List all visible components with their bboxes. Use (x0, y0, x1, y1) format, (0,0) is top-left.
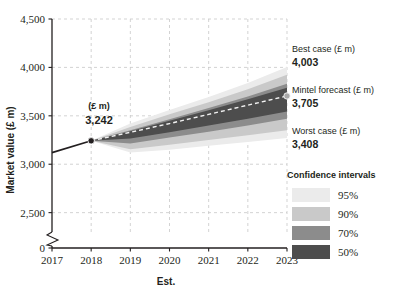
anchor-point-value-label: 3,242 (85, 114, 113, 126)
chart-canvas: 02,5003,0003,5004,0004,500 2017201820192… (0, 0, 399, 298)
x-tick-label-2: 2019 (119, 254, 142, 266)
x-tick-label-0: 2017 (41, 254, 64, 266)
legend-label-50%: 50% (338, 246, 358, 258)
legend-label-95%: 95% (338, 189, 358, 201)
confidence-bands (91, 67, 287, 152)
y-tick-label-2: 3,000 (20, 158, 45, 170)
annotation-title-0: Best case (£ m) (292, 44, 355, 54)
y-tick-label-4: 4,000 (20, 61, 45, 73)
annotation-title-2: Worst case (£ m) (292, 126, 360, 136)
marker-point-1 (284, 93, 290, 99)
historical-solid-line (52, 141, 91, 153)
legend-swatch-95% (292, 188, 330, 202)
x-tick-label-4: 2021 (198, 254, 220, 266)
x-tick-label-3: 2020 (159, 254, 182, 266)
y-tick-label-0: 0 (40, 242, 46, 254)
legend-swatch-70% (292, 226, 330, 240)
x-tick-label-5: 2022 (237, 254, 259, 266)
legend-swatch-50% (292, 245, 330, 259)
legend: Confidence intervals 95%90%70%50% (287, 170, 376, 259)
historical-line (52, 141, 91, 153)
legend-items: 95%90%70%50% (292, 188, 358, 259)
annotation-value-2: 3,408 (292, 138, 318, 150)
x-axis-title: Est. (157, 276, 176, 287)
annotation-value-1: 3,705 (292, 97, 318, 109)
y-tick-label-5: 4,500 (20, 13, 45, 25)
legend-swatch-90% (292, 207, 330, 221)
legend-title: Confidence intervals (287, 170, 376, 180)
right-annotations: Best case (£ m)4,003Mintel forecast (£ m… (292, 44, 374, 150)
y-tick-label-1: 2,500 (20, 207, 45, 219)
legend-label-90%: 90% (338, 208, 358, 220)
marker-point-0 (88, 138, 94, 144)
annotation-title-1: Mintel forecast (£ m) (292, 85, 374, 95)
x-axis-tick-labels: 2017201820192020202120222023 (41, 254, 299, 266)
x-tick-label-1: 2018 (80, 254, 103, 266)
legend-label-70%: 70% (338, 227, 358, 239)
fan-chart: 02,5003,0003,5004,0004,500 2017201820192… (0, 0, 399, 298)
anchor-point-unit-label: (£ m) (88, 101, 110, 111)
y-axis-title: Market value (£ m) (5, 106, 16, 193)
y-tick-label-3: 3,500 (20, 110, 45, 122)
annotation-value-0: 4,003 (292, 56, 318, 68)
y-axis-tick-labels: 02,5003,0003,5004,0004,500 (20, 13, 45, 254)
y-axis-break-zigzag (47, 232, 58, 246)
